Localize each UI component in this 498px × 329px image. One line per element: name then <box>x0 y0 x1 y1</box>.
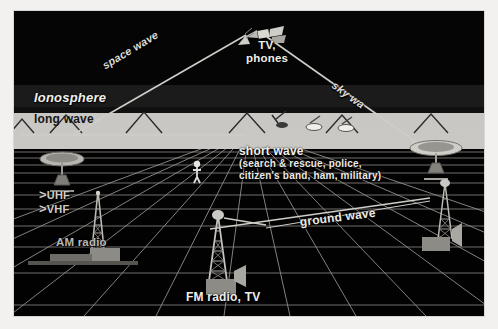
label-tv: TV, <box>258 39 275 51</box>
label-tv-phones: TV,phones <box>246 39 288 65</box>
short-wave-users-line2: citizen's band, ham, military) <box>239 170 381 181</box>
label-short-wave-users: (search & rescue, police,citizen's band,… <box>239 158 381 181</box>
label-short-wave: short wave <box>239 144 304 158</box>
label-uhf: >UHF <box>39 187 70 202</box>
satellite-dish-left <box>40 152 84 191</box>
person-figure <box>193 161 201 183</box>
diagram-frame: space wave sky wa TV,phones Ionosphere l… <box>14 11 484 316</box>
label-long-wave: long wave <box>34 112 94 126</box>
label-ionosphere: Ionosphere <box>34 90 106 105</box>
label-phones: phones <box>246 52 288 64</box>
figure-canvas: space wave sky wa TV,phones Ionosphere l… <box>0 0 498 329</box>
am-ground-pad <box>28 261 138 265</box>
label-vhf: >VHF <box>39 201 69 216</box>
vhf-text: VHF <box>47 203 70 215</box>
right-radio-tower <box>422 179 462 251</box>
space-wave-ray <box>74 35 246 134</box>
label-am-radio: AM radio <box>56 236 107 248</box>
short-wave-users-line1: (search & rescue, police, <box>239 158 362 169</box>
uhf-bracket-icon: > <box>39 187 47 202</box>
vhf-bracket-icon: > <box>39 201 47 216</box>
small-dish-antennas <box>272 111 354 132</box>
uhf-text: UHF <box>47 189 70 201</box>
label-fm-radio-tv: FM radio, TV <box>186 290 260 304</box>
